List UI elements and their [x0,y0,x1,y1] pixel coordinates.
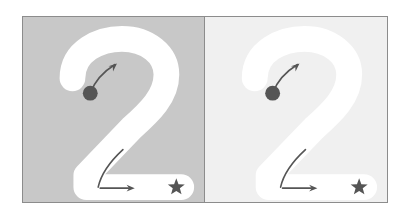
stroke-order-figure [0,0,410,218]
high-contrast-panel-canvas [23,17,204,202]
low-contrast-panel-canvas [205,17,387,202]
high-contrast-panel [22,16,205,203]
low-contrast-panel [205,16,388,203]
start-dot [265,86,280,101]
panel-strip [22,16,388,203]
start-dot [83,86,98,101]
